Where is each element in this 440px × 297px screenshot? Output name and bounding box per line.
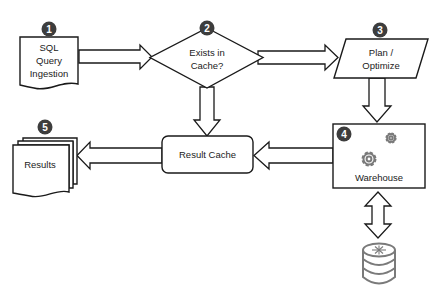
database-icon <box>363 244 395 284</box>
arrow-cache-check-to-result-cache <box>194 87 220 136</box>
arrow-ingestion-to-cache-check <box>79 45 152 69</box>
node-exists-in-cache-decision[interactable]: Exists in Cache? 2 <box>150 21 263 89</box>
svg-text:4: 4 <box>341 129 347 140</box>
flowchart-canvas: SQL Query Ingestion 1 Exists in Cache? 2… <box>0 0 440 297</box>
svg-text:1: 1 <box>46 24 52 35</box>
node-result-cache[interactable]: Result Cache <box>162 136 253 173</box>
parallelogram-shape <box>334 39 428 78</box>
ingestion-label-line-1: SQL <box>39 42 58 53</box>
step-badge-4: 4 <box>337 127 352 142</box>
node-warehouse[interactable]: 4 Warehouse <box>333 124 425 188</box>
ingestion-label-line-3: Ingestion <box>30 68 69 79</box>
result-cache-label: Result Cache <box>179 149 236 160</box>
arrow-cache-check-to-plan <box>258 45 338 70</box>
decision-diamond-shape <box>150 28 263 88</box>
arrow-warehouse-storage-bidirectional <box>365 192 391 238</box>
step-badge-1: 1 <box>42 22 57 37</box>
multi-document-front-sheet <box>13 145 69 197</box>
arrow-result-cache-to-results <box>77 142 162 169</box>
step-badge-3: 3 <box>373 23 388 38</box>
step-badge-5: 5 <box>38 120 53 135</box>
plan-label-line-1: Plan / <box>369 47 394 58</box>
plan-label-line-2: Optimize <box>362 60 399 71</box>
step-badge-2: 2 <box>200 21 215 36</box>
arrow-warehouse-to-result-cache <box>254 142 333 169</box>
svg-text:5: 5 <box>42 122 48 133</box>
results-label: Results <box>24 159 56 170</box>
decision-label-line-1: Exists in <box>189 47 224 58</box>
decision-label-line-2: Cache? <box>191 60 224 71</box>
arrow-plan-to-warehouse <box>363 78 391 122</box>
warehouse-label: Warehouse <box>355 172 403 183</box>
node-sql-query-ingestion[interactable]: SQL Query Ingestion 1 <box>20 22 78 89</box>
node-results[interactable]: Results 5 <box>13 120 77 197</box>
ingestion-label-line-2: Query <box>36 55 62 66</box>
node-plan-optimize[interactable]: Plan / Optimize 3 <box>334 23 428 79</box>
svg-text:3: 3 <box>377 25 383 36</box>
svg-text:2: 2 <box>204 23 210 34</box>
